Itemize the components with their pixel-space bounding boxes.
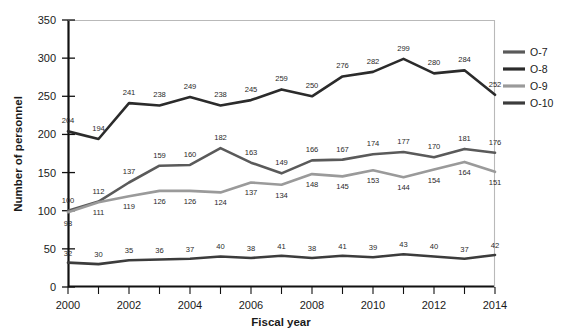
x-tick-label: 2012 <box>422 299 446 311</box>
data-label: 32 <box>64 249 72 258</box>
data-label: 36 <box>155 246 163 255</box>
data-label: 241 <box>123 88 136 97</box>
data-label: 177 <box>397 137 410 146</box>
data-label: 37 <box>460 245 468 254</box>
data-label: 38 <box>308 244 316 253</box>
data-label: 160 <box>184 150 197 159</box>
data-label: 137 <box>245 188 258 197</box>
data-label: 252 <box>489 80 502 89</box>
data-label: 30 <box>94 250 102 259</box>
data-label: 37 <box>186 245 194 254</box>
data-label: 166 <box>306 145 319 154</box>
legend-label-o-9: O-9 <box>530 80 548 92</box>
data-label: 154 <box>428 176 441 185</box>
data-label: 151 <box>489 178 502 187</box>
legend-label-o-10: O-10 <box>530 97 554 109</box>
data-label: 134 <box>275 191 288 200</box>
data-label: 238 <box>153 90 166 99</box>
data-label: 170 <box>428 142 441 151</box>
data-label: 249 <box>184 82 197 91</box>
x-axis-title: Fiscal year <box>251 316 311 328</box>
data-label: 126 <box>184 197 197 206</box>
y-tick-label: 350 <box>38 14 56 26</box>
data-label: 42 <box>491 241 499 250</box>
data-label: 100 <box>62 196 75 205</box>
data-label: 39 <box>369 243 377 252</box>
data-label: 164 <box>458 168 471 177</box>
data-label: 145 <box>336 182 349 191</box>
data-label: 126 <box>153 197 166 206</box>
data-label: 176 <box>489 138 502 147</box>
legend-label-o-8: O-8 <box>530 63 548 75</box>
data-label: 153 <box>367 176 380 185</box>
data-label: 282 <box>367 57 380 66</box>
data-label: 112 <box>92 187 104 196</box>
data-label: 35 <box>125 246 133 255</box>
y-axis-title: Number of personnel <box>12 96 24 212</box>
data-label: 41 <box>277 242 285 251</box>
y-tick-label: 200 <box>38 128 56 140</box>
data-label: 137 <box>123 167 136 176</box>
data-label: 250 <box>306 81 319 90</box>
y-tick-label: 250 <box>38 90 56 102</box>
data-label: 194 <box>92 124 105 133</box>
data-label: 245 <box>245 85 258 94</box>
data-label: 38 <box>247 244 255 253</box>
data-label: 238 <box>214 90 227 99</box>
data-label: 98 <box>64 219 72 228</box>
x-tick-label: 2014 <box>483 299 507 311</box>
data-label: 174 <box>367 139 380 148</box>
y-tick-label: 100 <box>38 205 56 217</box>
data-label: 119 <box>123 202 135 211</box>
data-label: 40 <box>430 242 438 251</box>
data-label: 144 <box>397 183 410 192</box>
data-label: 284 <box>458 55 471 64</box>
x-tick-label: 2008 <box>300 299 324 311</box>
line-chart: 050100150200250300350 200020022004200620… <box>0 0 562 336</box>
data-label: 167 <box>336 145 349 154</box>
data-label: 276 <box>336 61 349 70</box>
data-label: 181 <box>458 134 471 143</box>
data-label: 280 <box>428 58 441 67</box>
data-label: 111 <box>93 208 105 217</box>
chart-canvas: 050100150200250300350 200020022004200620… <box>0 0 562 336</box>
legend-label-o-7: O-7 <box>530 46 548 58</box>
x-tick-label: 2000 <box>56 299 80 311</box>
legend-items: O-7O-8O-9O-10 <box>503 46 554 109</box>
data-label: 259 <box>275 74 288 83</box>
data-label: 163 <box>245 148 258 157</box>
data-label: 159 <box>153 151 166 160</box>
x-tick-label: 2004 <box>178 299 202 311</box>
data-label: 204 <box>62 116 75 125</box>
data-label: 182 <box>214 133 227 142</box>
legend: O-7O-8O-9O-10 <box>503 20 554 287</box>
data-label: 299 <box>397 44 410 53</box>
data-label: 124 <box>214 198 227 207</box>
x-tick-label: 2010 <box>361 299 385 311</box>
y-tick-label: 50 <box>44 243 56 255</box>
y-tick-label: 300 <box>38 52 56 64</box>
data-label: 41 <box>338 242 346 251</box>
x-axis-ticks: 20002002200420062008201020122014 <box>56 287 507 311</box>
data-label: 148 <box>306 180 319 189</box>
x-tick-label: 2002 <box>117 299 141 311</box>
y-tick-label: 150 <box>38 167 56 179</box>
y-tick-label: 0 <box>50 281 56 293</box>
x-tick-label: 2006 <box>239 299 263 311</box>
data-label: 149 <box>275 158 288 167</box>
data-label: 43 <box>399 240 407 249</box>
data-label: 40 <box>216 242 224 251</box>
